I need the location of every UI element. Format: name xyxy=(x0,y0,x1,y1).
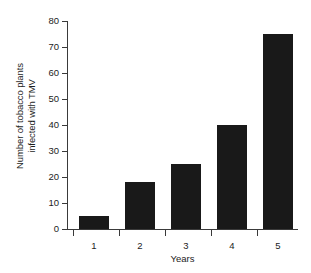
bar-2 xyxy=(125,182,155,229)
bar-5 xyxy=(263,34,293,229)
y-tick-mark xyxy=(62,203,68,204)
x-tick-label-5: 5 xyxy=(258,240,298,251)
y-tick-label: 50 xyxy=(17,94,59,104)
y-tick-label: 0 xyxy=(17,224,59,234)
y-tick-mark xyxy=(62,47,68,48)
y-tick-label: 70 xyxy=(17,42,59,52)
x-tick-label-2: 2 xyxy=(120,240,160,251)
y-tick-label: 40 xyxy=(17,120,59,130)
y-tick-label: 20 xyxy=(17,172,59,182)
x-tick-label-4: 4 xyxy=(212,240,252,251)
y-tick-label: 30 xyxy=(17,146,59,156)
y-tick-mark xyxy=(62,177,68,178)
x-tick-label-3: 3 xyxy=(166,240,206,251)
x-tick-mark xyxy=(73,230,74,236)
y-tick-mark xyxy=(62,21,68,22)
x-tick-mark xyxy=(119,230,120,236)
y-tick-mark xyxy=(62,229,68,230)
y-tick-mark xyxy=(62,99,68,100)
bar-1 xyxy=(79,216,109,229)
x-axis-line xyxy=(67,229,298,230)
x-tick-label-1: 1 xyxy=(74,240,114,251)
bar-3 xyxy=(171,164,201,229)
bar-chart-figure: Number of tobacco plants infected with T… xyxy=(0,0,311,273)
y-tick-mark xyxy=(62,73,68,74)
y-tick-mark xyxy=(62,151,68,152)
y-tick-mark xyxy=(62,125,68,126)
y-tick-label: 60 xyxy=(17,68,59,78)
x-tick-mark xyxy=(211,230,212,236)
y-tick-label: 80 xyxy=(17,16,59,26)
y-tick-label: 10 xyxy=(17,198,59,208)
bar-4 xyxy=(217,125,247,229)
x-tick-mark xyxy=(257,230,258,236)
x-tick-mark xyxy=(165,230,166,236)
x-axis-title: Years xyxy=(67,253,298,264)
